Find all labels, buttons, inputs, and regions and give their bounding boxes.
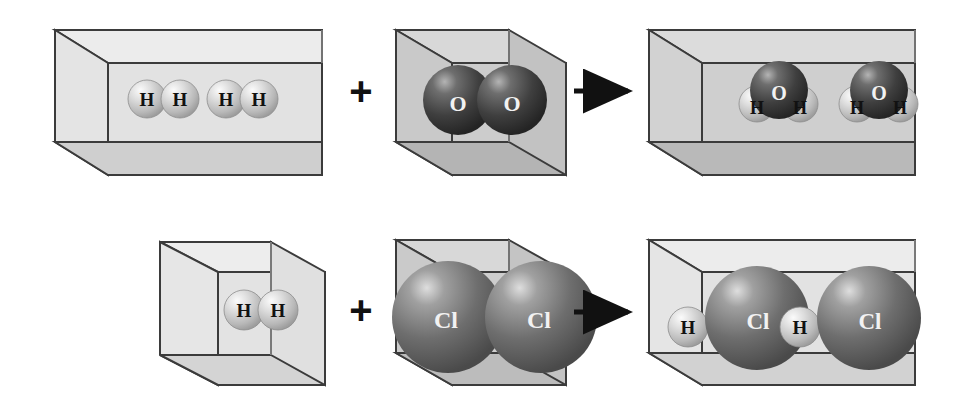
atom-label-chlorine: Cl [527,307,551,333]
atom-label-hydrogen: H [793,98,807,118]
oxygen-gas-container-box[interactable]: O O [396,30,566,175]
atom-label-chlorine: Cl [859,309,882,334]
atom-label-hydrogen: H [793,317,808,338]
box-floor-face [55,142,322,175]
reaction-scene: H H H H + O O [0,0,967,408]
atom-label-oxygen: O [771,82,787,104]
atom-label-hydrogen: H [219,89,234,110]
atom-label-chlorine: Cl [434,307,458,333]
atom-label-hydrogen: H [681,317,696,338]
hydrogen-gas-container-box-2[interactable]: H H [160,242,325,385]
plus-operator: + [349,69,372,113]
atom-label-hydrogen: H [140,89,155,110]
atom-label-hydrogen: H [237,300,252,321]
atom-label-oxygen: O [503,91,520,116]
chlorine-gas-container-box[interactable]: Cl Cl [392,240,597,385]
atom-label-hydrogen: H [271,300,286,321]
hydrogen-chloride-container-box[interactable]: H Cl H Cl [649,240,921,385]
atom-label-hydrogen: H [173,89,188,110]
atom-label-chlorine: Cl [747,309,770,334]
atom-label-oxygen: O [871,82,887,104]
box-floor-face [649,142,915,175]
atom-label-hydrogen: H [252,89,267,110]
atom-label-hydrogen: H [893,98,907,118]
atom-label-hydrogen: H [850,98,864,118]
atom-label-hydrogen: H [750,98,764,118]
hydrogen-gas-container-box-1[interactable]: H H H H [55,30,322,175]
water-vapor-container-box[interactable]: O H H O H H [649,30,918,175]
plus-operator: + [349,288,372,332]
atom-label-oxygen: O [449,91,466,116]
diagram-canvas: H H H H + O O [0,0,967,408]
